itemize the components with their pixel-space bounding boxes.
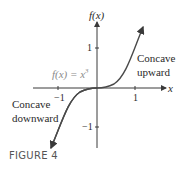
annotation-lower-line1: Concave bbox=[12, 98, 58, 110]
annotation-lower-line2: downward bbox=[12, 112, 58, 124]
function-label: f(x) = x3 bbox=[52, 65, 89, 80]
annotation-upper-line1: Concave bbox=[137, 52, 175, 64]
x-tick-label-1: 1 bbox=[133, 92, 138, 104]
annotation-upper-line2: upward bbox=[137, 66, 175, 78]
y-tick-label-neg1: −1 bbox=[82, 121, 93, 133]
function-label-text: f(x) = x bbox=[52, 68, 85, 80]
cubic-graph bbox=[0, 0, 186, 174]
annotation-concave-downward: Concave downward bbox=[12, 98, 58, 124]
x-axis-label: x bbox=[168, 82, 173, 94]
annotation-concave-upward: Concave upward bbox=[137, 52, 175, 78]
y-tick-label-1: 1 bbox=[87, 42, 92, 54]
figure-caption: FIGURE 4 bbox=[9, 150, 58, 161]
function-exponent: 3 bbox=[85, 67, 89, 75]
y-axis-label: f(x) bbox=[89, 9, 104, 21]
